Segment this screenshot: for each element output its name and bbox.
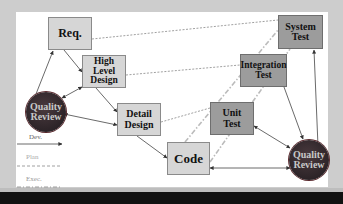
integration-test-box: Integration Test	[240, 54, 287, 87]
detail-design-label-1: Detail	[126, 109, 152, 120]
system-test-label-2: Test	[292, 32, 309, 43]
quality-review-left-circle: Quality Review	[26, 92, 66, 132]
code-box: Code	[167, 142, 210, 175]
code-label: Code	[174, 152, 203, 166]
integration-test-label-1: Integration	[241, 61, 287, 71]
req-label: Req.	[58, 27, 82, 40]
quality-review-right-label-2: Review	[293, 160, 324, 171]
legend-plan-label: Plan	[26, 153, 38, 161]
legend-dev-label: Dev.	[29, 133, 42, 141]
quality-review-left-label-2: Review	[30, 112, 61, 123]
high-level-design-label-2: Design	[90, 76, 117, 86]
quality-review-right-circle: Quality Review	[289, 140, 329, 180]
high-level-design-label-1: High Level	[83, 57, 125, 77]
high-level-design-box: High Level Design	[82, 55, 126, 88]
unit-test-label-2: Test	[223, 119, 240, 130]
system-test-box: System Test	[278, 15, 323, 49]
integration-test-label-2: Test	[255, 71, 272, 81]
legend-exec-label: Exec.	[26, 175, 42, 183]
unit-test-label-1: Unit	[223, 108, 242, 119]
detail-design-box: Detail Design	[117, 103, 161, 136]
unit-test-box: Unit Test	[210, 102, 254, 135]
req-box: Req.	[48, 17, 92, 50]
detail-design-label-2: Design	[125, 120, 154, 131]
frame-bottom-bar	[0, 192, 343, 204]
